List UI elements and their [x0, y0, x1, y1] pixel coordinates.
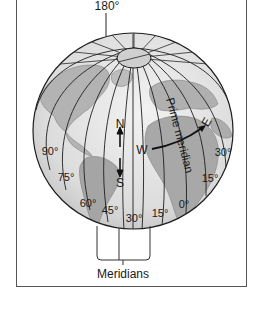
- label-south: S: [116, 176, 124, 190]
- meridian-label-15e: 15°: [202, 172, 219, 184]
- meridian-label-75w: 75°: [58, 171, 75, 183]
- globe-diagram: 180° N S W E Prime meridian 90° 75° 60° …: [0, 0, 268, 310]
- meridian-label-0: 0°: [179, 198, 190, 210]
- caption-meridians: Meridians: [97, 267, 149, 281]
- meridians-bracket: [97, 226, 150, 265]
- meridian-label-45w: 45°: [102, 204, 119, 216]
- label-west: W: [136, 143, 148, 157]
- globe: [33, 33, 233, 230]
- meridian-label-90w: 90°: [42, 145, 59, 157]
- meridian-label-60w: 60°: [80, 197, 97, 209]
- meridian-label-30e: 30°: [215, 146, 232, 158]
- label-north: N: [116, 117, 125, 131]
- meridian-label-30w: 30°: [126, 212, 143, 224]
- meridian-label-15w: 15°: [152, 207, 169, 219]
- label-180: 180°: [95, 0, 120, 13]
